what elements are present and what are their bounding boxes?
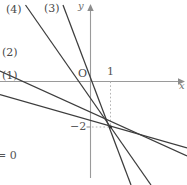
graph-line-3 (63, 5, 131, 185)
plot-canvas (0, 0, 187, 185)
x-axis-label: x (179, 81, 185, 91)
y-axis-arrowhead (87, 4, 93, 11)
graph-line-2 (0, 71, 187, 156)
curve-label-1: (1) (2, 70, 18, 81)
curve-label-4: (4) (6, 4, 22, 15)
y-tick-label-minus2: −2 (70, 121, 86, 132)
y-axis-label: y (78, 1, 84, 11)
common-intersection-point (109, 126, 112, 129)
graph-line-4 (26, 5, 152, 185)
side-equation-text: = 0 (0, 150, 17, 161)
math-figure-coordinate-plane: (1) (2) (3) (4) O 1 −2 y x = 0 (0, 0, 187, 185)
origin-label: O (78, 68, 87, 79)
x-tick-label-1: 1 (107, 66, 114, 77)
curve-label-3: (3) (44, 3, 60, 14)
curve-label-2: (2) (2, 47, 18, 58)
